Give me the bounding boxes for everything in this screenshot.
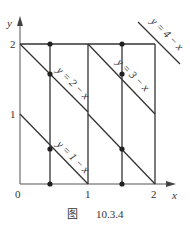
point xyxy=(47,71,52,76)
point xyxy=(119,41,124,46)
point xyxy=(47,181,52,186)
label-y-1-minus-x: y = 1 − x xyxy=(54,137,92,175)
x-axis-label: x xyxy=(171,189,177,201)
x-tick-1: 1 xyxy=(85,188,91,200)
diagram-canvas: y x 0 1 2 1 2 y = 1 − x y = 2 − x y = 3 … xyxy=(0,0,190,229)
label-y-4-minus-x: y = 4 − x xyxy=(148,14,186,52)
x-axis-arrow-icon xyxy=(166,181,176,187)
point xyxy=(47,146,52,151)
x-tick-2: 2 xyxy=(151,188,157,200)
caption-number: 10.3.4 xyxy=(96,208,124,220)
label-y-2-minus-x: y = 2 − x xyxy=(54,63,92,101)
y-tick-1: 1 xyxy=(10,108,16,120)
y-tick-2: 2 xyxy=(10,38,16,50)
y-axis-label: y xyxy=(6,17,12,29)
region-lines xyxy=(20,22,180,184)
point xyxy=(47,41,52,46)
caption-prefix: 图 xyxy=(67,208,78,220)
point xyxy=(119,181,124,186)
point xyxy=(119,146,124,151)
line-y-1-minus-x xyxy=(20,114,88,184)
origin-label: 0 xyxy=(15,188,21,200)
y-axis-arrow-icon xyxy=(17,16,23,26)
